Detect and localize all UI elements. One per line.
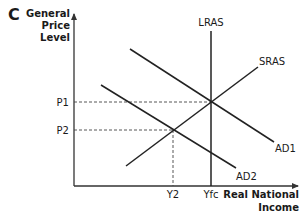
ad2-label: AD2: [236, 171, 257, 182]
sras-curve: [126, 67, 258, 166]
y-axis-label-line2: Price: [42, 20, 71, 31]
y2-label: Y2: [166, 189, 179, 200]
x-axis-label-line2: Income: [258, 202, 299, 213]
ad1-curve: [130, 49, 274, 142]
ad-as-diagram: C General Price Level LRAS SRAS AD1 AD2 …: [0, 0, 305, 215]
ad1-label: AD1: [275, 143, 296, 154]
y-axis-label-line1: General: [26, 8, 70, 19]
p2-label: P2: [57, 125, 69, 136]
p1-label: P1: [57, 97, 69, 108]
yfc-label: Yfc: [202, 189, 218, 200]
lras-label: LRAS: [198, 17, 223, 28]
y-axis-label-line3: Level: [40, 32, 70, 43]
x-axis-label-line1: Real National: [223, 189, 299, 200]
ad2-curve: [101, 85, 236, 168]
sras-label: SRAS: [259, 56, 285, 67]
panel-label: C: [8, 5, 20, 24]
